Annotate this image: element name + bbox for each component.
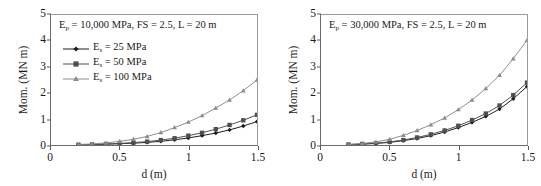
triangle-marker [255,78,257,82]
x-axis-title: d (m) [141,168,166,180]
chart-panel-right: Ep = 30,000 MPa, FS = 2.5, L = 20 m 0123… [270,0,540,186]
x-tick-mark [119,146,120,150]
legend-label: Es = 50 MPa [93,57,146,69]
x-tick-mark [258,146,259,150]
triangle-marker [227,98,232,102]
square-marker [525,80,527,84]
square-marker [145,139,149,143]
square-marker [131,140,135,144]
y-axis-title-left: Mom. (MN m) [17,46,29,115]
triangle-marker [213,106,218,110]
x-tick-mark [389,146,390,150]
square-marker [401,138,405,142]
square-marker [470,118,474,122]
triangle-marker [525,38,527,42]
y-tick-label: 5 [24,8,46,20]
y-axis-title-right: Mom. (MN m) [287,46,299,115]
diamond-marker [241,124,245,128]
series-square [348,83,527,145]
square-marker [255,113,257,117]
x-tick-label: 1.5 [251,152,265,164]
y-tick-label: 1 [294,114,316,126]
square-marker [456,124,460,128]
diamond-marker [73,46,78,51]
series-triangle [348,40,527,144]
diamond-marker [255,119,257,123]
square-marker [241,118,245,122]
y-tick-mark [317,93,321,94]
square-marker [484,111,488,115]
square-marker [159,138,163,142]
legend-marker-triangle-marker [63,73,89,85]
series-line [78,80,257,144]
triangle-marker [456,107,461,111]
square-marker [442,128,446,132]
square-marker [186,133,190,137]
y-tick-mark [317,119,321,120]
x-tick-label: 0 [317,152,323,164]
y-tick-label: 5 [294,8,316,20]
square-marker [73,61,78,66]
diamond-marker [214,131,218,135]
series-diamond [348,87,527,145]
legend-item: Es = 100 MPa [63,71,152,86]
y-tick-mark [317,40,321,41]
legend-marker-diamond-marker [63,43,89,55]
plot-area-right: Ep = 30,000 MPa, FS = 2.5, L = 20 m [320,14,528,146]
legend-item: Es = 25 MPa [63,41,152,56]
x-tick-label: 0.5 [112,152,126,164]
y-tick-mark [317,66,321,67]
y-tick-mark [47,14,51,15]
plot-series-right [321,15,527,145]
x-tick-label: 1.5 [521,152,535,164]
x-tick-mark [50,146,51,150]
series-triangle [78,80,257,144]
figure-two-panel-moment-charts: Ep = 10,000 MPa, FS = 2.5, L = 20 m Es =… [0,0,541,186]
annotation-right: Ep = 30,000 MPa, FS = 2.5, L = 20 m [329,19,486,33]
series-line [348,87,527,145]
x-tick-label: 0 [47,152,53,164]
x-tick-mark [528,146,529,150]
legend-label: Es = 100 MPa [93,72,152,84]
y-tick-mark [47,119,51,120]
x-tick-mark [189,146,190,150]
square-marker [172,136,176,140]
y-tick-mark [317,14,321,15]
y-tick-label: 0 [24,140,46,152]
y-tick-mark [47,40,51,41]
square-marker [497,103,501,107]
x-tick-mark [320,146,321,150]
x-tick-label: 1 [186,152,192,164]
square-marker [200,131,204,135]
x-tick-label: 0.5 [382,152,396,164]
x-tick-label: 1 [456,152,462,164]
square-marker [415,135,419,139]
y-tick-label: 1 [24,114,46,126]
annotation-left: Ep = 10,000 MPa, FS = 2.5, L = 20 m [59,19,216,33]
square-marker [214,127,218,131]
legend-item: Es = 50 MPa [63,56,152,71]
legend-label: Es = 25 MPa [93,42,146,54]
square-marker [227,123,231,127]
plot-area-left: Ep = 10,000 MPa, FS = 2.5, L = 20 m Es =… [50,14,258,146]
triangle-marker [442,115,447,119]
chart-panel-left: Ep = 10,000 MPa, FS = 2.5, L = 20 m Es =… [0,0,270,186]
y-tick-label: 0 [294,140,316,152]
legend-marker-square-marker [63,58,89,70]
square-marker [429,132,433,136]
square-marker [511,93,515,97]
x-axis-title: d (m) [411,168,436,180]
x-tick-mark [459,146,460,150]
legend-left: Es = 25 MPaEs = 50 MPaEs = 100 MPa [63,41,152,86]
y-tick-mark [47,66,51,67]
series-line [348,83,527,145]
y-tick-mark [47,93,51,94]
diamond-marker [227,128,231,132]
series-line [348,40,527,144]
